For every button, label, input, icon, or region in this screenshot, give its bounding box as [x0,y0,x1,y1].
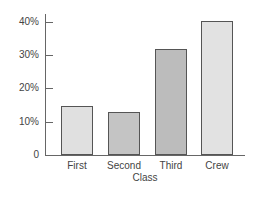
y-tick-label: 10% [19,117,39,127]
y-tick-label: 20% [19,83,39,93]
bar-chart: 40% 30% 20% 10% 0 First Second Third Cre… [0,0,254,197]
bar-first [61,106,93,155]
y-tick-label: 40% [19,17,39,27]
x-tick-label: Third [146,160,196,171]
y-tick-label: 30% [19,50,39,60]
y-tick-30 [45,55,53,56]
x-axis-line [45,155,245,156]
y-tick-10 [45,122,53,123]
y-tick-label: 0 [33,150,39,160]
x-tick-label: Second [99,160,149,171]
y-tick-40 [45,22,53,23]
x-tick-label: First [52,160,102,171]
bar-second [108,112,140,155]
bar-third [155,49,187,155]
bar-crew [201,21,233,155]
x-axis-title: Class [120,172,170,183]
y-axis-line [45,14,46,156]
y-tick-20 [45,88,53,89]
x-tick-label: Crew [192,160,242,171]
